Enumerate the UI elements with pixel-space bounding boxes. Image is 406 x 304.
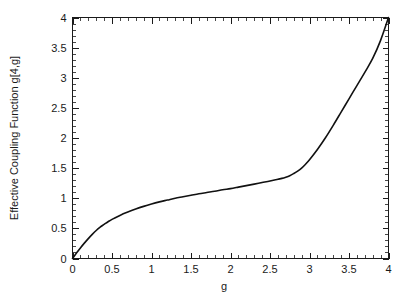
y-tick-label: 2 [60,132,66,144]
y-tick-label: 3.5 [51,42,66,54]
y-tick-label: 0.5 [51,222,66,234]
x-tick-label: 4 [385,263,391,275]
x-tick-label: 1.5 [183,263,198,275]
y-axis-ticks-right [383,19,389,260]
x-tick-label: 2.5 [262,263,277,275]
x-axis-tick-labels: 00.511.522.533.54 [69,263,391,275]
y-tick-label: 0 [60,253,66,265]
figure-container: 00.511.522.533.54 00.511.522.533.54 g Ef… [0,0,406,304]
y-tick-label: 1.5 [51,162,66,174]
x-tick-label: 2 [227,263,233,275]
data-series-curve [73,18,389,259]
x-tick-label: 3 [306,263,312,275]
x-axis-ticks-bottom [74,253,390,259]
y-tick-label: 4 [60,12,66,24]
x-tick-label: 0 [69,263,75,275]
chart-canvas: 00.511.522.533.54 00.511.522.533.54 g Ef… [0,0,406,304]
x-tick-label: 0.5 [104,263,119,275]
y-tick-label: 3 [60,72,66,84]
y-axis-title: Effective Coupling Function g[4,g] [8,56,20,220]
y-tick-label: 1 [60,192,66,204]
plot-frame [73,18,389,259]
x-tick-label: 1 [148,263,154,275]
y-tick-label: 2.5 [51,102,66,114]
x-axis-ticks-top [74,18,390,24]
x-axis-title: g [221,280,227,292]
x-tick-label: 3.5 [341,263,356,275]
y-axis-tick-labels: 00.511.522.533.54 [51,12,66,265]
y-axis-ticks-left [73,19,79,260]
